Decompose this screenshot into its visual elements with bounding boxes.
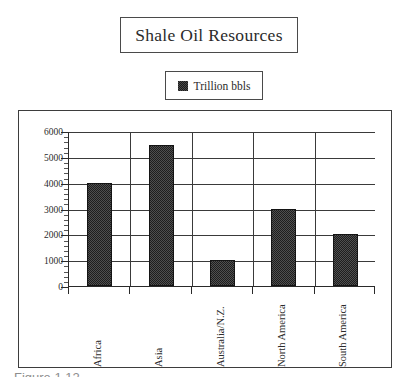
x-axis-category-label: South America [337, 304, 348, 367]
x-axis-category-label: Asia [153, 348, 164, 367]
gridline [69, 158, 375, 159]
legend-series-label: Trillion bbls [194, 80, 251, 92]
y-axis-major-tick [61, 235, 68, 236]
y-axis-tick-marks [61, 132, 68, 287]
x-axis-category-label: Australia/N.Z. [215, 306, 226, 367]
y-axis-major-tick [61, 158, 68, 159]
y-axis-tick-labels: 0100020003000400050006000 [19, 132, 63, 287]
gridline [69, 132, 375, 133]
category-separator [315, 132, 316, 286]
y-axis-major-tick [61, 210, 68, 211]
bar [149, 145, 174, 286]
gridline [69, 210, 375, 211]
legend-swatch-icon [178, 81, 188, 91]
bar [271, 209, 296, 287]
x-axis-category-label: North America [276, 304, 287, 367]
bar [87, 183, 112, 286]
category-separator [192, 132, 193, 286]
category-separator [253, 132, 254, 286]
gridline [69, 184, 375, 185]
x-axis-category-labels: AfricaAsiaAustralia/N.Z.North AmericaSou… [68, 293, 375, 367]
chart-title: Shale Oil Resources [135, 25, 283, 46]
y-axis-major-tick [61, 287, 68, 288]
bar [210, 260, 235, 286]
bar [333, 234, 358, 286]
chart-frame: 0100020003000400050006000 AfricaAsiaAust… [18, 110, 392, 368]
gridline [69, 235, 375, 236]
figure-caption: Figure 1.12 [14, 371, 134, 377]
x-axis-category-label: Africa [92, 340, 103, 367]
y-axis-major-tick [61, 261, 68, 262]
y-axis-major-tick [61, 132, 68, 133]
chart-title-box: Shale Oil Resources [120, 17, 298, 53]
chart-legend: Trillion bbls [165, 71, 263, 100]
y-axis-major-tick [61, 184, 68, 185]
plot-area [68, 132, 375, 287]
category-separator [130, 132, 131, 286]
